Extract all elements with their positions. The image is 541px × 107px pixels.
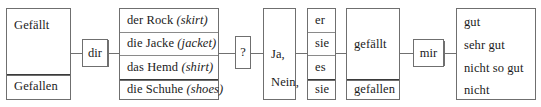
clothing-noun-word-2: Jacke bbox=[146, 37, 174, 50]
degree-adverb-row-1[interactable]: gut bbox=[457, 12, 535, 33]
verb-infinitive-divider bbox=[7, 74, 70, 75]
connector-nouns-to-question bbox=[219, 53, 235, 54]
question-mark-label: ? bbox=[240, 46, 246, 59]
dative-pronoun-mir-cell: mir bbox=[414, 40, 443, 66]
clothing-noun-row-2[interactable]: die Jacke (jacket) bbox=[120, 32, 218, 55]
bracket-nouns-left bbox=[108, 40, 109, 67]
conjugated-verb-divider bbox=[347, 79, 399, 80]
clothing-noun-word-1: Rock bbox=[147, 14, 174, 27]
clothing-noun-word-4: Schuhe bbox=[146, 83, 183, 96]
subject-pronoun-row-4[interactable]: sie bbox=[308, 79, 335, 99]
verb-infinitive-label-2: Gefallen bbox=[14, 80, 58, 93]
degree-adverb-box: gut sehr gut nicht so gut nicht bbox=[456, 8, 536, 100]
clothing-noun-divider-2 bbox=[120, 55, 218, 56]
conjugated-verb-label-1: gefällt bbox=[354, 38, 387, 51]
scan-artifact bbox=[86, 0, 99, 8]
answer-particle-box: Ja, Nein, bbox=[263, 8, 296, 100]
verb-infinitive-row-2[interactable]: Gefallen bbox=[7, 74, 70, 99]
connector-dir-to-nouns bbox=[108, 53, 119, 54]
dative-pronoun-mir-label: mir bbox=[420, 47, 438, 60]
subject-pronoun-row-2[interactable]: sie bbox=[308, 32, 335, 55]
connector-answer-to-pronouns bbox=[296, 53, 307, 54]
degree-adverb-label-4: nicht bbox=[464, 84, 490, 97]
conjugated-verb-row-2[interactable]: gefallen bbox=[347, 79, 399, 99]
clothing-noun-gloss-4: (shoes) bbox=[186, 83, 223, 96]
dative-pronoun-mir-box[interactable]: mir bbox=[413, 39, 444, 67]
connector-verbs-to-mir bbox=[400, 53, 413, 54]
verb-infinitive-row-1[interactable]: Gefällt bbox=[7, 9, 70, 42]
clothing-noun-word-3: Hemd bbox=[147, 61, 178, 74]
clothing-noun-row-4[interactable]: die Schuhe (shoes) bbox=[120, 79, 218, 99]
degree-adverb-row-3[interactable]: nicht so gut bbox=[457, 58, 535, 79]
connector-pronouns-to-verbs bbox=[336, 53, 346, 54]
subject-pronoun-row-3[interactable]: es bbox=[308, 55, 335, 79]
conjugated-verb-label-2: gefallen bbox=[354, 83, 395, 96]
connector-question-to-answer bbox=[251, 53, 263, 54]
conjugated-verb-box: gefällt gefallen bbox=[346, 8, 400, 100]
answer-particle-row-2[interactable]: Nein, bbox=[264, 71, 295, 93]
subject-pronoun-box: er sie es sie bbox=[307, 8, 336, 100]
degree-adverb-label-3: nicht so gut bbox=[464, 62, 524, 75]
verb-infinitive-box: Gefällt Gefallen bbox=[6, 8, 71, 100]
connector-mir-to-adverbs bbox=[444, 53, 456, 54]
subject-pronoun-label-1: er bbox=[315, 14, 325, 27]
subject-pronoun-divider-3 bbox=[308, 79, 335, 80]
clothing-noun-article-3: das bbox=[127, 61, 144, 74]
dative-pronoun-dir-cell: dir bbox=[83, 40, 107, 66]
bracket-adverbs-left bbox=[444, 41, 445, 66]
subject-pronoun-divider-2 bbox=[308, 55, 335, 56]
clothing-noun-row-1[interactable]: der Rock (skirt) bbox=[120, 9, 218, 32]
clothing-noun-gloss-2: (jacket) bbox=[177, 37, 216, 50]
degree-adverb-row-2[interactable]: sehr gut bbox=[457, 35, 535, 56]
clothing-noun-article-1: der bbox=[127, 14, 143, 27]
clothing-noun-gloss-1: (skirt) bbox=[177, 14, 208, 27]
clothing-noun-divider-1 bbox=[120, 32, 218, 33]
question-mark-box[interactable]: ? bbox=[235, 36, 251, 69]
conjugated-verb-row-1[interactable]: gefällt bbox=[347, 9, 399, 79]
german-substitution-table-diagram: Gefällt Gefallen dir der Rock (skirt) di… bbox=[0, 0, 541, 107]
connector-gefaellt-to-dir bbox=[71, 53, 82, 54]
subject-pronoun-label-3: es bbox=[315, 61, 326, 74]
clothing-noun-divider-3 bbox=[120, 79, 218, 80]
degree-adverb-label-1: gut bbox=[464, 16, 480, 29]
degree-adverb-row-4[interactable]: nicht bbox=[457, 80, 535, 101]
question-mark-cell: ? bbox=[236, 37, 250, 68]
answer-particle-label-2: Nein, bbox=[271, 76, 299, 89]
subject-pronoun-label-2: sie bbox=[315, 37, 329, 50]
dative-pronoun-dir-label: dir bbox=[88, 47, 102, 60]
answer-particle-row-1[interactable]: Ja, bbox=[264, 43, 295, 65]
clothing-noun-gloss-3: (shirt) bbox=[181, 61, 213, 74]
clothing-noun-article-2: die bbox=[127, 37, 143, 50]
clothing-noun-box: der Rock (skirt) die Jacke (jacket) das … bbox=[119, 8, 219, 100]
answer-particle-label-1: Ja, bbox=[271, 48, 285, 61]
clothing-noun-article-4: die bbox=[127, 83, 143, 96]
degree-adverb-label-2: sehr gut bbox=[464, 39, 505, 52]
clothing-noun-row-3[interactable]: das Hemd (shirt) bbox=[120, 55, 218, 79]
verb-infinitive-label-1: Gefällt bbox=[14, 19, 49, 32]
subject-pronoun-label-4: sie bbox=[315, 83, 329, 96]
subject-pronoun-divider-1 bbox=[308, 32, 335, 33]
subject-pronoun-row-1[interactable]: er bbox=[308, 9, 335, 32]
dative-pronoun-dir-box[interactable]: dir bbox=[82, 39, 108, 67]
